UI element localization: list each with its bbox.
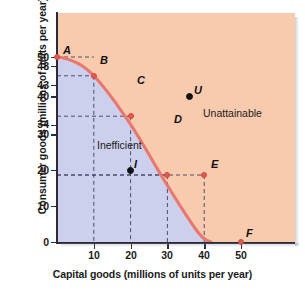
unattainable-label: Unattainable (203, 107, 262, 119)
point-A-label: A (63, 44, 71, 56)
ppf-chart-figure: Consumer goods (millions of units per ye… (0, 0, 305, 292)
x-axis-title: Capital goods (millions of units per yea… (0, 268, 305, 280)
point-B-label: B (100, 54, 108, 66)
figure-shadow-right (295, 17, 299, 246)
x-tick-label-10: 10 (79, 249, 109, 261)
x-tick-label-20: 20 (116, 249, 146, 261)
y-axis-line (56, 12, 58, 242)
y-tick-40 (51, 96, 57, 97)
y-tick-label-0: 0 (4, 236, 49, 248)
y-tick-30 (51, 134, 57, 135)
point-B-dot (91, 73, 97, 79)
y-tick-label-40: 40 (4, 90, 49, 102)
plot-area (57, 13, 295, 242)
inefficient-label: Inefficient (97, 139, 142, 151)
y-tick-10 (51, 206, 57, 207)
point-D-label: D (174, 113, 182, 125)
y-tick-label-20: 20 (4, 164, 49, 176)
point-A-dot (54, 54, 60, 60)
y-tick-34 (51, 125, 57, 126)
point-E-label: E (211, 158, 218, 170)
x-tick-label-50: 50 (226, 249, 256, 261)
figure-shadow-bottom (61, 243, 299, 247)
x-tick-label-30: 30 (152, 249, 182, 261)
point-U-label: U (194, 84, 202, 96)
point-I-dot (127, 167, 134, 174)
y-tick-48 (51, 66, 57, 67)
point-C-label: C (137, 74, 145, 86)
point-U-dot (186, 93, 193, 100)
point-F-label: F (246, 227, 253, 239)
ppf-svg (57, 13, 295, 242)
point-C-dot (128, 113, 134, 119)
y-tick-label-10: 10 (4, 200, 49, 212)
y-tick-label-30: 30 (4, 128, 49, 140)
point-I-label: I (134, 158, 137, 170)
y-tick-20 (51, 170, 57, 171)
y-axis-title: Consumer goods (millions of units per ye… (36, 0, 48, 226)
y-tick-0 (51, 242, 57, 243)
y-tick-label-48: 48 (4, 60, 49, 72)
x-tick-label-40: 40 (189, 249, 219, 261)
y-tick-43 (51, 85, 57, 86)
